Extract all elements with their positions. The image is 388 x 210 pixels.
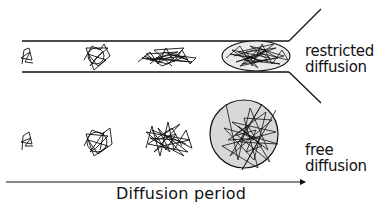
free-label-line1: free bbox=[305, 143, 333, 158]
diffusion-diagram: restricted diffusion free diffusion Diff… bbox=[0, 0, 388, 210]
free-label-line2: diffusion bbox=[305, 159, 367, 174]
restricted-label-line2: diffusion bbox=[305, 60, 367, 75]
restricted-stage-2 bbox=[84, 44, 110, 70]
free-stage-4 bbox=[210, 100, 278, 170]
free-stage-2 bbox=[84, 128, 112, 156]
diagram-graphics bbox=[0, 0, 388, 210]
free-stage-1 bbox=[21, 132, 33, 150]
restricted-stage-3 bbox=[138, 48, 196, 66]
axis-label: Diffusion period bbox=[116, 186, 246, 202]
restricted-stage-4 bbox=[222, 41, 290, 71]
restricted-label-line1: restricted bbox=[305, 44, 374, 59]
restricted-stage-1 bbox=[21, 48, 33, 64]
free-stage-3 bbox=[146, 122, 192, 156]
